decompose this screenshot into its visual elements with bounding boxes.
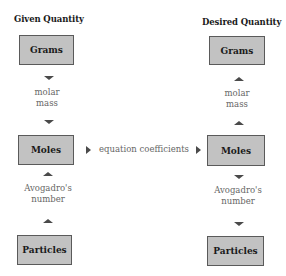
arrow-down-icon xyxy=(44,76,54,80)
label-line: Avogadro's xyxy=(19,183,77,194)
label-line: number xyxy=(209,196,267,207)
label-line: number xyxy=(19,194,77,205)
given-quantity-title: Given Quantity xyxy=(14,14,84,24)
given-moles-box: Moles xyxy=(18,135,74,165)
label-line: molar xyxy=(217,88,257,99)
arrow-up-icon xyxy=(234,77,244,81)
arrow-down-icon xyxy=(234,175,244,179)
arrow-up-icon xyxy=(43,219,53,223)
desired-molar-mass-label: molar mass xyxy=(217,88,257,110)
arrow-right-icon xyxy=(196,146,201,154)
arrow-down-icon xyxy=(234,222,244,226)
desired-particles-box: Particles xyxy=(207,236,264,266)
arrow-right-icon xyxy=(86,146,91,154)
arrow-down-icon xyxy=(44,120,54,124)
label-line: mass xyxy=(27,98,67,109)
desired-moles-box: Moles xyxy=(207,135,265,166)
label-line: mass xyxy=(217,99,257,110)
label-line: Avogadro's xyxy=(209,185,267,196)
desired-grams-box: Grams xyxy=(209,36,265,65)
given-grams-box: Grams xyxy=(19,35,74,65)
label-line: molar xyxy=(27,87,67,98)
given-particles-box: Particles xyxy=(17,235,72,265)
desired-avogadro-label: Avogadro's number xyxy=(209,185,267,207)
desired-quantity-title: Desired Quantity xyxy=(202,17,281,27)
given-molar-mass-label: molar mass xyxy=(27,87,67,109)
equation-coefficients-label: equation coefficients xyxy=(98,144,190,155)
given-avogadro-label: Avogadro's number xyxy=(19,183,77,205)
arrow-up-icon xyxy=(234,121,244,125)
arrow-up-icon xyxy=(43,172,53,176)
